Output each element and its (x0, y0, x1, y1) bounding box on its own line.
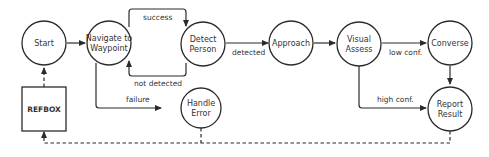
node-report-label-2: Result (438, 110, 463, 119)
node-handle-error: Handle Error (181, 88, 221, 128)
node-start: Start (22, 21, 66, 65)
node-visual-label-1: Visual (347, 35, 371, 44)
node-handle-label-1: Handle (187, 99, 215, 108)
node-detect-label-2: Person (190, 45, 217, 54)
edge-not-detected (129, 61, 186, 76)
node-navigate-to-waypoint: Navigate to Waypoint (86, 21, 133, 65)
node-handle-label-2: Error (191, 109, 211, 118)
node-report-label-1: Report (437, 100, 464, 109)
node-visual-assess: Visual Assess (337, 22, 381, 66)
edge-label-high-conf: high conf. (377, 95, 414, 104)
edge-report-to-refbox (44, 131, 450, 143)
edge-label-detected: detected (232, 48, 266, 57)
node-converse-label: Converse (431, 39, 469, 48)
node-refbox: REFBOX (22, 87, 66, 131)
node-visual-label-2: Assess (345, 45, 372, 54)
node-report-result: Report Result (428, 87, 472, 131)
node-converse: Converse (428, 21, 472, 65)
edge-label-low-conf: low conf. (389, 48, 422, 57)
node-detect-label-1: Detect (190, 35, 217, 44)
node-refbox-label: REFBOX (27, 105, 61, 114)
node-start-label: Start (34, 39, 54, 48)
node-navigate-label-2: Waypoint (90, 44, 127, 53)
state-machine-diagram: success not detected failure detected lo… (0, 0, 489, 157)
node-detect-person: Detect Person (181, 22, 225, 66)
node-navigate-label-1: Navigate to (86, 34, 133, 43)
node-approach: Approach (269, 21, 313, 65)
edge-label-failure: failure (126, 95, 150, 104)
node-approach-label: Approach (272, 39, 310, 48)
edge-label-not-detected: not detected (134, 79, 182, 88)
edge-label-success: success (143, 13, 172, 22)
